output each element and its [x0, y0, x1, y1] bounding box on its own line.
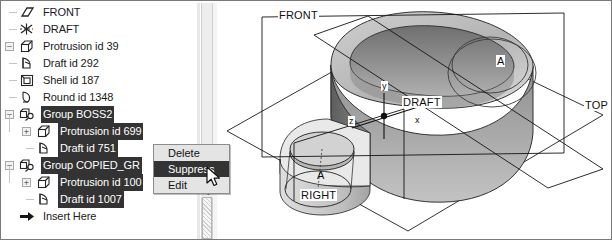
draft-icon: [19, 56, 36, 71]
graphics-window[interactable]: FRONT DRAFT TOP RIGHT y x z A A: [218, 3, 611, 239]
tree-connector: [9, 29, 17, 30]
tree-connector: [9, 12, 17, 13]
tree-connector: [9, 97, 17, 98]
menu-item-suppress[interactable]: Suppress: [154, 161, 229, 177]
tree-expander-plus[interactable]: +: [22, 178, 31, 187]
tree-connector: [26, 199, 34, 200]
axis-label-y: y: [381, 81, 388, 91]
round-icon: [19, 90, 36, 105]
tree-item-label: Draft id 292: [41, 55, 101, 72]
shell-icon: [19, 73, 36, 88]
axis-label-x: x: [414, 115, 421, 125]
axis-label-z: z: [348, 116, 355, 126]
group-icon: [19, 158, 36, 173]
protrusion-icon: [36, 175, 53, 190]
protrusion-icon: [36, 124, 53, 139]
tree-item-label: Protrusion id 39: [41, 38, 120, 55]
model-tree-panel[interactable]: FRONT DRAFT –: [3, 3, 197, 239]
tree-expander-minus[interactable]: –: [5, 42, 14, 51]
datum-label-right: RIGHT: [300, 189, 337, 201]
tree-scrollbar-thumb[interactable]: [202, 197, 212, 239]
tree-connector: [9, 115, 10, 132]
menu-item-delete[interactable]: Delete: [154, 145, 229, 161]
tree-connector: [26, 148, 34, 149]
group-icon: [19, 107, 36, 122]
tree-connector: [9, 63, 17, 64]
feature-context-menu[interactable]: Delete Suppress Edit: [153, 144, 230, 194]
draft-icon: [36, 192, 53, 207]
tree-item-label: Group COPIED_GR: [41, 157, 142, 174]
tree-item-label: DRAFT: [41, 21, 81, 38]
tree-item-label: Shell id 187: [41, 72, 101, 89]
tree-connector: [9, 80, 17, 81]
datum-label-top: TOP: [584, 99, 609, 111]
draft-icon: [36, 141, 53, 156]
tree-item-label: Protrusion id 100: [58, 174, 143, 191]
tree-item-label: Protrusion id 699: [58, 123, 143, 140]
tree-item-label: Group BOSS2: [41, 106, 114, 123]
datum-axis-icon: [19, 22, 36, 37]
section-label-a-bottom: A: [316, 169, 325, 181]
section-label-a-top: A: [496, 55, 505, 67]
tree-item-label: FRONT: [41, 4, 82, 21]
datum-label-draft: DRAFT: [402, 96, 442, 108]
insert-here-icon: [19, 209, 36, 224]
protrusion-icon: [19, 39, 36, 54]
tree-expander-plus[interactable]: +: [22, 127, 31, 136]
datum-plane-icon: [19, 5, 36, 20]
tree-item-label: Insert Here: [41, 208, 98, 225]
menu-item-edit[interactable]: Edit: [154, 177, 229, 193]
tree-item-label: Draft id 1007: [58, 191, 124, 208]
application-screenshot: FRONT DRAFT –: [0, 0, 612, 240]
tree-item-label: Round id 1348: [41, 89, 115, 106]
tree-item-label: Draft id 751: [58, 140, 118, 157]
datum-label-front: FRONT: [278, 9, 319, 21]
tree-connector: [9, 166, 10, 183]
